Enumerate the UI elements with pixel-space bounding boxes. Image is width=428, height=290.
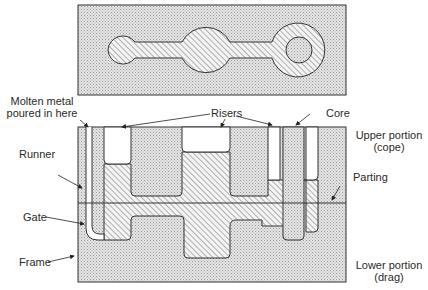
core-hole-top (286, 37, 312, 63)
label-upper-portion: Upper portion (cope) (350, 129, 428, 153)
riser-left (104, 127, 131, 164)
label-runner: Runner (19, 148, 55, 160)
label-molten-metal-line2: poured in here (0, 107, 84, 119)
riser-core-left (268, 127, 280, 180)
label-lower-portion: Lower portion (drag) (350, 259, 428, 283)
label-gate: Gate (23, 211, 47, 223)
riser-right (306, 127, 318, 180)
label-risers: Risers (211, 107, 242, 119)
label-molten-metal: Molten metal poured in here (0, 95, 84, 119)
section-view (78, 127, 346, 282)
label-upper-line2: (cope) (350, 141, 428, 153)
label-molten-metal-line1: Molten metal (0, 95, 84, 107)
riser-middle (182, 127, 230, 152)
core (283, 127, 304, 240)
top-view (78, 5, 346, 95)
label-lower-line1: Lower portion (350, 259, 428, 271)
label-upper-line1: Upper portion (350, 129, 428, 141)
label-frame: Frame (19, 256, 51, 268)
label-lower-line2: (drag) (350, 271, 428, 283)
label-parting: Parting (353, 171, 388, 183)
label-core: Core (326, 107, 350, 119)
